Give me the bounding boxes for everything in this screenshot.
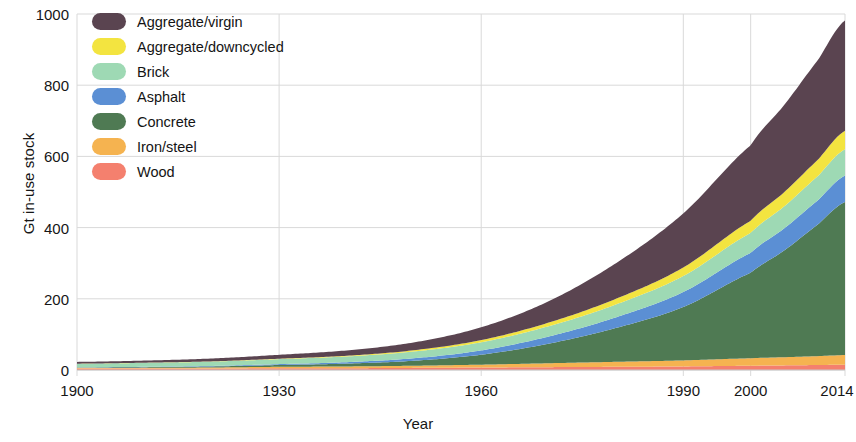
x-tick-label: 1930 (262, 382, 295, 399)
legend-item[interactable]: Iron/steel (92, 135, 284, 158)
x-tick-label: 2014 (820, 382, 853, 399)
x-tick-label: 1900 (60, 382, 93, 399)
legend-swatch-icon (92, 88, 126, 105)
legend-swatch-icon (92, 163, 126, 180)
y-tick-label: 600 (21, 148, 69, 165)
legend-item-label: Aggregate/downcycled (137, 39, 284, 55)
legend-swatch-icon (92, 38, 126, 55)
legend-item[interactable]: Aggregate/virgin (92, 10, 284, 33)
y-tick-label: 800 (21, 77, 69, 94)
legend-item[interactable]: Wood (92, 160, 284, 183)
y-tick-label: 400 (21, 219, 69, 236)
y-tick-label: 1000 (21, 6, 69, 23)
stacked-area-chart: Gt in-use stock 02004006008001000 190019… (0, 0, 856, 442)
x-tick-label: 1960 (465, 382, 498, 399)
chart-legend: Aggregate/virginAggregate/downcycledBric… (92, 10, 284, 183)
legend-swatch-icon (92, 63, 126, 80)
y-axis-title: Gt in-use stock (20, 104, 37, 264)
y-tick-label: 200 (21, 290, 69, 307)
legend-item-label: Concrete (137, 114, 196, 130)
x-tick-label: 2000 (734, 382, 767, 399)
legend-item-label: Asphalt (137, 89, 185, 105)
legend-swatch-icon (92, 138, 126, 155)
legend-swatch-icon (92, 13, 126, 30)
legend-item[interactable]: Concrete (92, 110, 284, 133)
legend-item-label: Aggregate/virgin (137, 14, 243, 30)
legend-item-label: Wood (137, 164, 175, 180)
x-axis-title-text: Year (403, 415, 433, 432)
x-axis-title: Year (0, 415, 856, 432)
legend-swatch-icon (92, 113, 126, 130)
legend-item[interactable]: Brick (92, 60, 284, 83)
legend-item[interactable]: Aggregate/downcycled (92, 35, 284, 58)
legend-item-label: Iron/steel (137, 139, 197, 155)
legend-item-label: Brick (137, 64, 169, 80)
x-tick-label: 1990 (667, 382, 700, 399)
y-tick-label: 0 (21, 362, 69, 379)
legend-item[interactable]: Asphalt (92, 85, 284, 108)
